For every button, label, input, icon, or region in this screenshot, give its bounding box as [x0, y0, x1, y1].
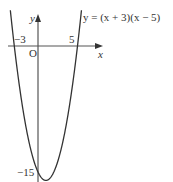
x-intercept-left-label: −3 — [14, 33, 26, 45]
parabola-graph: y x O −3 5 −15 y = (x + 3)(x − 5) — [0, 0, 173, 182]
origin-label: O — [29, 47, 37, 59]
equation-label: y = (x + 3)(x − 5) — [83, 11, 161, 24]
x-axis-label: x — [97, 48, 103, 60]
y-axis-label: y — [29, 12, 35, 24]
x-intercept-right-label: 5 — [69, 33, 75, 45]
y-axis-arrow-icon — [35, 14, 41, 22]
y-intercept-label: −15 — [17, 166, 35, 178]
